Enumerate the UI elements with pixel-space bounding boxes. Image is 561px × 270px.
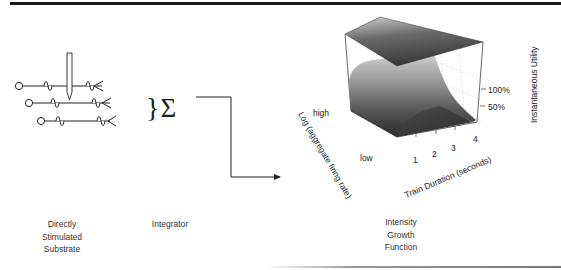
z-axis-label: Instantaneous Utility	[529, 46, 539, 123]
x-tick-1: 1	[413, 155, 418, 165]
x-tick-3: 3	[451, 143, 456, 153]
y-tick-high: high	[313, 108, 329, 118]
soma-icon	[25, 99, 32, 106]
surface-plateau	[345, 17, 483, 66]
caption-line: Integrator	[138, 218, 202, 231]
caption-substrate: Directly Stimulated Substrate	[30, 218, 94, 256]
caption-line: Function	[372, 241, 430, 254]
x-tick-2: 2	[432, 149, 437, 159]
elbow-arrow-icon	[196, 97, 280, 177]
z-tick-100: 100%	[488, 85, 510, 95]
sigma-icon: Σ	[160, 93, 176, 123]
bottom-rule	[265, 266, 561, 268]
caption-line: Substrate	[30, 243, 94, 256]
caption-line: Intensity	[372, 216, 430, 229]
neuron-3	[37, 116, 116, 126]
y-axis-label: Log (aggregate firing rate)	[296, 110, 354, 200]
caption-growth-function: Intensity Growth Function	[372, 216, 430, 254]
soma-icon	[15, 82, 22, 89]
soma-icon	[37, 117, 44, 124]
integrator-symbol: }Σ	[146, 93, 176, 123]
caption-line: Directly	[30, 218, 94, 231]
surface-plot	[345, 17, 486, 137]
neuron-2	[25, 98, 111, 108]
neuron-1	[15, 81, 103, 91]
caption-integrator: Integrator	[138, 218, 202, 231]
caption-line: Growth	[372, 229, 430, 242]
z-tick-50: 50%	[488, 102, 505, 112]
x-tick-4: 4	[473, 134, 478, 144]
brace-icon: }	[146, 92, 159, 123]
caption-line: Stimulated	[30, 231, 94, 244]
y-tick-low: low	[360, 153, 374, 163]
stimulating-electrode-icon	[67, 53, 72, 100]
